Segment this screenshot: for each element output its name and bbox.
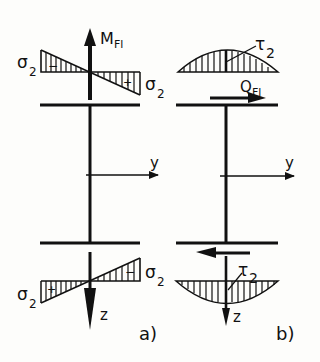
sigma-label-top-left: σ: [17, 52, 28, 72]
svg-text:2: 2: [29, 297, 37, 311]
panel-a: [40, 28, 158, 330]
sign-bottom-left: +: [47, 283, 56, 296]
panel-b-labels: τ 2 Q Fl y τ 2 z b): [233, 34, 294, 344]
z-axis-label-b: z: [233, 308, 241, 326]
sign-top-right: +: [123, 76, 132, 89]
moment-label: M: [100, 29, 114, 48]
z-axis-label-a: z: [100, 306, 108, 324]
z-axis-arrow-b: [222, 308, 230, 326]
panel-b: [176, 46, 294, 326]
sigma-label-bottom-left: σ: [17, 284, 28, 304]
tau-leader-top: [226, 46, 256, 62]
i-beam-stress-diagram: M Fl σ 2 σ 2 − + y σ 2 σ 2 + − z a): [0, 0, 320, 362]
y-axis-label-b: y: [285, 154, 294, 172]
y-axis-label-a: y: [150, 154, 159, 172]
shear-label: Q: [240, 78, 252, 96]
shear-subscript: Fl: [252, 86, 261, 99]
caption-a: a): [139, 323, 157, 344]
sign-top-left: −: [48, 59, 58, 73]
svg-text:2: 2: [249, 270, 258, 286]
caption-b: b): [276, 323, 294, 344]
sigma-label-bottom-right: σ: [145, 262, 156, 282]
sigma-label-top-right: σ: [145, 74, 156, 94]
tau-label-bottom: τ: [238, 260, 248, 280]
svg-text:2: 2: [29, 65, 37, 79]
tau-label-top: τ: [255, 34, 265, 54]
sign-bottom-right: −: [125, 265, 135, 279]
svg-text:2: 2: [157, 87, 165, 101]
svg-text:2: 2: [266, 45, 275, 61]
moment-subscript: Fl: [114, 38, 123, 51]
svg-text:2: 2: [157, 275, 165, 289]
